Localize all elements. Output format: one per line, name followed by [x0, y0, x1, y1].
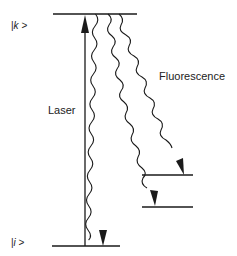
fluorescence-label: Fluorescence [159, 70, 225, 82]
energy-level-diagram [0, 0, 237, 256]
fluorescence-wave-k-to-i [85, 14, 107, 246]
laser-arrow [81, 15, 89, 246]
level-i-label: |i > [11, 237, 24, 248]
laser-label: Laser [48, 104, 76, 116]
level-k-label: |k > [11, 20, 27, 31]
fluorescence-wave-k-to-level-1 [119, 14, 184, 175]
fluorescence-wave-k-to-level-2 [108, 14, 158, 206]
